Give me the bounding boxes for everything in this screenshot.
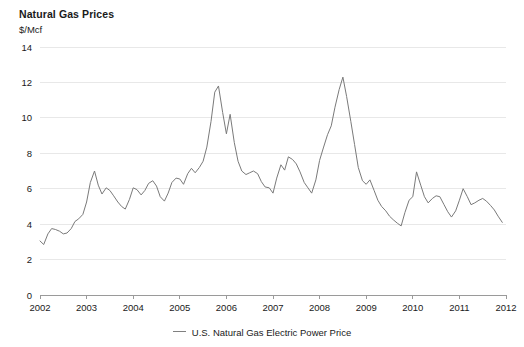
- x-axis-tick-label: 2010: [402, 302, 423, 313]
- y-axis-tick-label: 14: [21, 42, 32, 53]
- x-axis-tick-label: 2003: [76, 302, 97, 313]
- y-axis-tick-label: 10: [21, 112, 32, 123]
- chart-legend: U.S. Natural Gas Electric Power Price: [0, 326, 524, 338]
- x-axis-tick-label: 2006: [216, 302, 237, 313]
- y-axis-tick-label: 2: [27, 254, 32, 265]
- y-axis-tick-label: 8: [27, 148, 32, 159]
- chart-figure: Natural Gas Prices $/Mcf 024681012142002…: [0, 0, 524, 347]
- x-axis-tick-label: 2009: [356, 302, 377, 313]
- x-axis-tick-label: 2011: [449, 302, 469, 313]
- y-axis-tick-label: 6: [27, 183, 32, 194]
- x-axis-tick-label: 2004: [123, 302, 144, 313]
- x-axis-tick-label: 2005: [169, 302, 190, 313]
- line-chart-plot: 0246810121420022003200420052006200720082…: [0, 0, 524, 320]
- y-axis-tick-label: 0: [27, 290, 32, 301]
- x-axis-tick-label: 2002: [29, 302, 50, 313]
- x-axis-tick-label: 2007: [262, 302, 283, 313]
- legend-line-swatch: [173, 331, 186, 332]
- y-axis-tick-label: 4: [27, 219, 32, 230]
- x-axis-tick-label: 2008: [309, 302, 330, 313]
- legend-series-label: U.S. Natural Gas Electric Power Price: [192, 327, 351, 338]
- series-line-0: [40, 77, 502, 244]
- x-axis-tick-label: 2012: [495, 302, 516, 313]
- y-axis-tick-label: 12: [21, 77, 32, 88]
